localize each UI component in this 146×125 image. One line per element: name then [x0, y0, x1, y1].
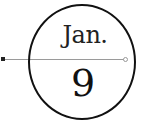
- date-badge: Jan. 9: [0, 0, 146, 125]
- timeline-start-marker-icon: [1, 57, 5, 61]
- date-month: Jan.: [60, 20, 110, 50]
- date-day: 9: [58, 62, 108, 104]
